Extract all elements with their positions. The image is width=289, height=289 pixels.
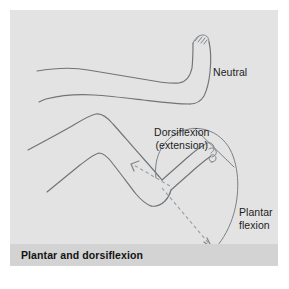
- label-neutral: Neutral: [213, 66, 247, 79]
- neutral-leg-drawing: [37, 35, 211, 104]
- figure-caption: Plantar and dorsiflexion: [21, 249, 143, 261]
- label-plantar-line2: flexion: [239, 219, 273, 232]
- anatomy-figure: Neutral Dorsiflexion (extension) Plantar…: [0, 0, 289, 289]
- illustration-panel: Neutral Dorsiflexion (extension) Plantar…: [10, 10, 278, 266]
- label-plantar-flexion: Plantar flexion: [239, 206, 273, 232]
- dorsiflexion-arrow: [131, 161, 170, 186]
- plantar-flexion-arrow: [162, 188, 212, 248]
- label-dorsiflexion-line1: Dorsiflexion: [154, 126, 209, 139]
- label-plantar-line1: Plantar: [239, 206, 273, 219]
- label-neutral-text: Neutral: [213, 66, 247, 78]
- label-dorsiflexion: Dorsiflexion (extension): [154, 126, 209, 152]
- label-dorsiflexion-line2: (extension): [154, 139, 209, 152]
- diagram-svg: [10, 10, 278, 266]
